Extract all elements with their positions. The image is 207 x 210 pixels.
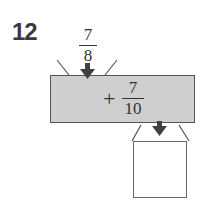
answer-box[interactable] [133, 141, 187, 198]
down-arrow-icon [152, 121, 167, 136]
down-arrow-icon [80, 63, 95, 79]
